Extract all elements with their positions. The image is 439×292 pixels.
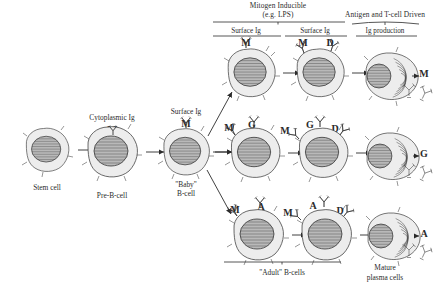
cell-pre-b [82, 124, 142, 181]
cell-row2-plasma [362, 127, 420, 186]
arrow-branch-lower [207, 170, 231, 214]
receptor-row2-g [315, 116, 326, 128]
cell-baby-b [158, 117, 214, 180]
secreted-antibody-row3-b [416, 244, 434, 262]
receptor-row1-m [241, 37, 252, 49]
receptor-row2-g [249, 116, 260, 128]
cell-row2-surface-first [225, 116, 285, 183]
cell-drawings [0, 0, 439, 292]
figure-canvas: Mitogen Inducible (e.g. LPS) Antigen and… [0, 0, 439, 292]
cell-row3-surface-second [289, 196, 357, 266]
cell-row2-surface-second [287, 116, 353, 183]
cell-row1-surface-second [291, 38, 349, 101]
receptor-row3-a [319, 196, 330, 208]
cell-stem [22, 126, 73, 177]
secreted-antibody-row2-b [416, 165, 434, 183]
secreted-antibody-row1-b [416, 85, 434, 103]
cell-row3-surface-first [226, 197, 289, 266]
arrow-branch-upper [208, 92, 232, 136]
surface-ig-receptor-baby [181, 117, 192, 129]
receptor-row3-m [289, 208, 305, 224]
cell-row1-plasma [361, 47, 419, 106]
cell-row1-surface-first [222, 37, 280, 102]
receptor-row3-a [255, 197, 266, 209]
cell-row3-plasma [363, 207, 421, 266]
